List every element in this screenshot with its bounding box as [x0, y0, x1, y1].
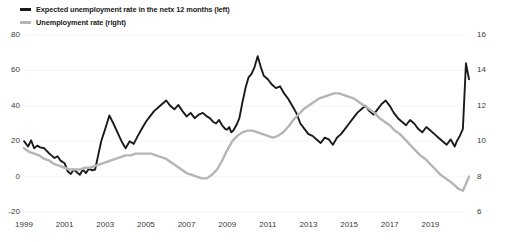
y-axis-right-tick: 8	[477, 172, 481, 181]
x-axis-tick: 2017	[370, 220, 410, 229]
x-axis-tick: 1999	[4, 220, 44, 229]
x-axis-tick: 2003	[85, 220, 125, 229]
y-axis-right-tick: 16	[477, 30, 486, 39]
y-axis-left-tick: 40	[11, 101, 20, 110]
y-axis-right-tick: 6	[477, 207, 481, 216]
y-axis-left-tick: 20	[11, 136, 20, 145]
y-axis-left-tick: -20	[8, 207, 20, 216]
x-axis-tick: 2019	[410, 220, 450, 229]
x-axis-tick: 2011	[248, 220, 288, 229]
y-axis-left-tick: 60	[11, 65, 20, 74]
x-axis-tick: 2013	[288, 220, 328, 229]
unemployment-chart: Expected unemployment rate in the netx 1…	[0, 0, 505, 242]
x-axis-tick: 2001	[45, 220, 85, 229]
x-axis-tick: 2009	[207, 220, 247, 229]
y-axis-right-tick: 10	[477, 136, 486, 145]
y-axis-left-tick: 0	[16, 172, 20, 181]
x-axis-tick: 2005	[126, 220, 166, 229]
series-line-expected	[24, 56, 469, 175]
series-line-actual	[24, 93, 469, 190]
y-axis-right-tick: 12	[477, 101, 486, 110]
y-axis-right-tick: 14	[477, 65, 486, 74]
x-axis-tick: 2015	[329, 220, 369, 229]
x-axis-tick: 2007	[167, 220, 207, 229]
y-axis-left-tick: 80	[11, 30, 20, 39]
plot-area	[0, 0, 505, 242]
